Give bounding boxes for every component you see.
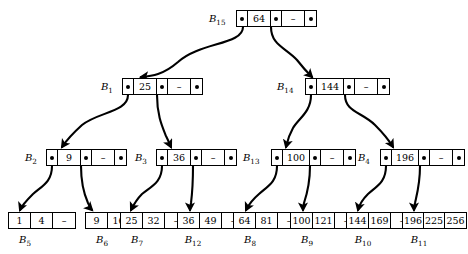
child-pointer-right — [225, 150, 236, 165]
pointer-dot-icon — [382, 85, 386, 89]
node-label-b3: B3 — [135, 152, 147, 166]
pointer-dot-icon — [309, 85, 313, 89]
child-pointer-right — [191, 79, 202, 94]
node-label-b10: B10 — [355, 234, 372, 248]
child-pointer-middle — [191, 150, 202, 165]
pointer-dot-icon — [84, 156, 88, 160]
node-label-b7: B7 — [131, 234, 143, 248]
pointer-dot-icon — [348, 156, 352, 160]
value-cell: 256 — [445, 213, 466, 228]
pointer-dot-icon — [457, 156, 461, 160]
empty-key-cell: – — [321, 150, 344, 165]
pointer-dot-icon — [309, 17, 313, 21]
pointer-dot-icon — [126, 85, 130, 89]
child-pointer-right — [115, 150, 126, 165]
node-label-b5: B5 — [19, 234, 31, 248]
child-pointer-right — [344, 150, 355, 165]
pointer-dot-icon — [50, 156, 54, 160]
pointer-dot-icon — [240, 17, 244, 21]
pointer-edge-b13-to-b9 — [303, 166, 310, 210]
value-cell: 32 — [143, 213, 165, 228]
node-label-b15: B15 — [209, 13, 226, 27]
child-pointer-right — [378, 79, 389, 94]
pointer-dot-icon — [274, 17, 278, 21]
child-pointer-left — [306, 79, 317, 94]
pointer-edge-b2-to-b5 — [20, 166, 52, 210]
child-pointer-middle — [271, 11, 282, 26]
pointer-dot-icon — [160, 156, 164, 160]
pointer-dot-icon — [275, 156, 279, 160]
child-pointer-middle — [310, 150, 321, 165]
value-cell: 4 — [31, 213, 53, 228]
pointer-dot-icon — [194, 156, 198, 160]
value-cell: 81 — [256, 213, 278, 228]
child-pointer-left — [123, 79, 134, 94]
value-cell: 100 — [291, 213, 313, 228]
child-pointer-left — [157, 150, 168, 165]
empty-key-cell: – — [355, 79, 378, 94]
btree-diagram: B1564–B125–B14144–B29–B336–B13100–B4196–… — [0, 0, 468, 254]
key-cell: 9 — [58, 150, 81, 165]
internal-node-b13[interactable]: 100– — [271, 149, 356, 166]
pointer-dot-icon — [347, 85, 351, 89]
node-label-b14: B14 — [277, 81, 294, 95]
empty-value-cell: – — [53, 213, 75, 228]
empty-key-cell: – — [430, 150, 453, 165]
internal-node-b2[interactable]: 9– — [46, 149, 127, 166]
pointer-dot-icon — [422, 156, 426, 160]
child-pointer-middle — [419, 150, 430, 165]
value-cell: 1 — [9, 213, 31, 228]
node-label-b11: B11 — [411, 234, 428, 248]
internal-node-b3[interactable]: 36– — [156, 149, 237, 166]
node-label-b13: B13 — [243, 152, 260, 166]
child-pointer-left — [272, 150, 283, 165]
value-cell: 25 — [121, 213, 143, 228]
key-cell: 100 — [283, 150, 310, 165]
pointer-dot-icon — [384, 156, 388, 160]
internal-node-b4[interactable]: 196– — [380, 149, 465, 166]
pointer-dot-icon — [229, 156, 233, 160]
key-cell: 144 — [317, 79, 344, 94]
key-cell: 196 — [392, 150, 419, 165]
child-pointer-left — [237, 11, 248, 26]
key-cell: 25 — [134, 79, 157, 94]
pointer-edge-b4-to-b11 — [414, 166, 420, 210]
child-pointer-left — [47, 150, 58, 165]
node-label-b8: B8 — [244, 234, 256, 248]
node-label-b12: B12 — [185, 234, 202, 248]
child-pointer-left — [381, 150, 392, 165]
pointer-edge-b3-to-b12 — [190, 166, 193, 210]
value-cell: 144 — [347, 213, 369, 228]
leaf-node-b5[interactable]: 14– — [8, 212, 76, 229]
child-pointer-middle — [81, 150, 92, 165]
internal-node-b15[interactable]: 64– — [236, 10, 317, 27]
pointer-dot-icon — [195, 85, 199, 89]
key-cell: 64 — [248, 11, 271, 26]
pointer-edge-b1-to-b2 — [62, 95, 128, 147]
pointer-edge-b3-to-b7 — [131, 166, 162, 210]
internal-node-b1[interactable]: 25– — [122, 78, 203, 95]
pointer-edges — [20, 27, 420, 210]
pointer-dot-icon — [313, 156, 317, 160]
value-cell: 196 — [403, 213, 424, 228]
pointer-edge-b14-to-b4 — [345, 95, 393, 147]
child-pointer-right — [453, 150, 464, 165]
empty-key-cell: – — [282, 11, 305, 26]
pointer-edge-b4-to-b10 — [358, 166, 386, 210]
value-cell: 169 — [369, 213, 391, 228]
empty-key-cell: – — [92, 150, 115, 165]
child-pointer-middle — [157, 79, 168, 94]
value-cell: 49 — [200, 213, 222, 228]
node-label-b4: B4 — [358, 152, 370, 166]
empty-key-cell: – — [202, 150, 225, 165]
pointer-edge-b15-to-b14 — [271, 27, 312, 77]
leaf-node-b11[interactable]: 196225256 — [402, 212, 467, 229]
pointer-edge-b14-to-b13 — [286, 95, 311, 147]
pointer-edge-b2-to-b6 — [81, 166, 92, 210]
internal-node-b14[interactable]: 144– — [305, 78, 390, 95]
node-label-b2: B2 — [25, 152, 37, 166]
value-cell: 225 — [424, 213, 445, 228]
pointer-dot-icon — [119, 156, 123, 160]
child-pointer-middle — [344, 79, 355, 94]
value-cell: 9 — [86, 213, 108, 228]
